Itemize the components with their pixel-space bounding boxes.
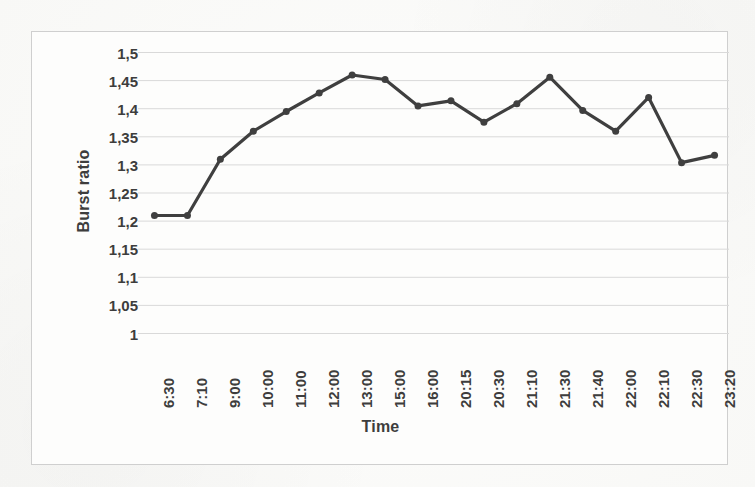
x-tick-label: 20:30 (490, 369, 507, 407)
x-tick-label: 10:00 (259, 369, 276, 407)
x-tick-label: 12:00 (325, 369, 342, 407)
x-tick-label: 13:00 (358, 369, 375, 407)
x-tick-label: 11:00 (292, 370, 309, 408)
x-tick-label: 23:20 (721, 369, 738, 407)
x-tick-label: 15:00 (391, 369, 408, 407)
x-axis-tick-labels: 6:307:109:0010:0011:0012:0013:0015:0016:… (32, 32, 729, 466)
x-tick-label: 9:00 (226, 377, 243, 407)
x-axis-title: Time (32, 418, 729, 436)
x-tick-label: 22:10 (655, 369, 672, 407)
x-tick-label: 21:40 (589, 369, 606, 407)
x-tick-label: 21:30 (556, 369, 573, 407)
x-tick-label: 22:00 (622, 369, 639, 407)
x-tick-label: 22:30 (688, 369, 705, 407)
x-tick-label: 20:15 (457, 369, 474, 407)
x-tick-label: 6:30 (160, 377, 177, 407)
x-tick-label: 21:10 (523, 369, 540, 407)
x-tick-label: 16:00 (424, 369, 441, 407)
x-tick-label: 7:10 (193, 377, 210, 407)
y-axis-title: Burst ratio (75, 101, 93, 281)
chart-frame: 1,51,451,41,351,31,251,21,151,11,051 6:3… (31, 31, 728, 465)
